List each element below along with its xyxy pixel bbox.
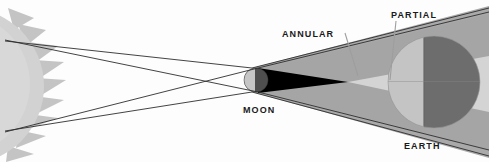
eclipse-diagram: ANNULAR PARTIAL MOON EARTH (0, 0, 489, 162)
label-moon: MOON (243, 105, 275, 115)
diagram-canvas (0, 0, 489, 162)
label-annular: ANNULAR (282, 29, 334, 39)
label-earth: EARTH (404, 141, 441, 151)
sun-group (0, 8, 66, 162)
earth-equator-line (386, 81, 482, 82)
moon-group (244, 68, 268, 92)
moon-lit-side (244, 68, 255, 92)
label-partial: PARTIAL (391, 10, 437, 20)
earth-terminator (423, 34, 425, 130)
